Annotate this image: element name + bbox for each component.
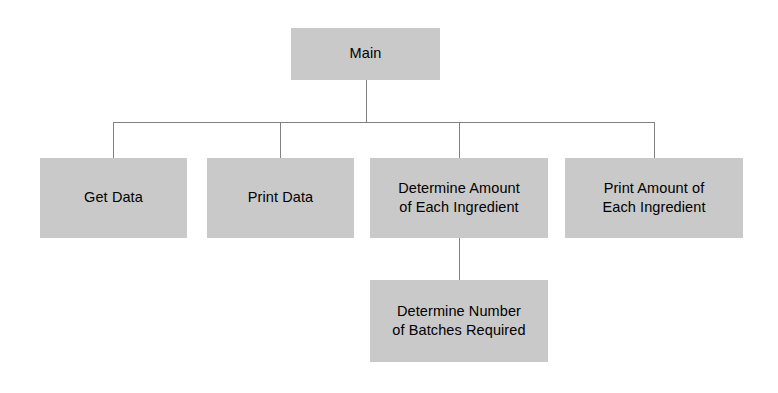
node-print-data-label: Print Data: [242, 188, 319, 207]
node-determine-amount[interactable]: Determine Amount of Each Ingredient: [370, 158, 548, 238]
node-main-label: Main: [344, 44, 388, 63]
node-get-data[interactable]: Get Data: [40, 158, 187, 238]
node-print-data[interactable]: Print Data: [207, 158, 354, 238]
structure-chart-diagram: Main Get Data Print Data Determine Amoun…: [0, 0, 778, 393]
node-determine-amount-label: Determine Amount of Each Ingredient: [392, 179, 526, 217]
node-get-data-label: Get Data: [78, 188, 149, 207]
node-print-amount[interactable]: Print Amount of Each Ingredient: [565, 158, 743, 238]
node-print-amount-label: Print Amount of Each Ingredient: [596, 179, 711, 217]
node-main[interactable]: Main: [291, 28, 440, 80]
node-determine-batches-label: Determine Number of Batches Required: [386, 302, 531, 340]
node-determine-batches[interactable]: Determine Number of Batches Required: [370, 280, 548, 362]
